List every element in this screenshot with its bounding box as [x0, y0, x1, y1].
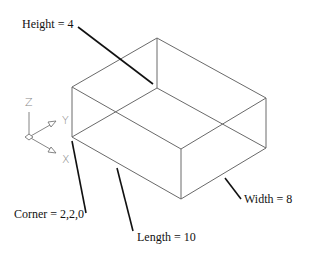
wireframe-box: [72, 38, 266, 199]
y-axis-label: Y: [62, 114, 69, 127]
width-label: Width = 8: [244, 192, 292, 206]
bottom-edge-back-right: [157, 88, 266, 148]
length-leader: [117, 168, 133, 231]
top-edge-front-left: [72, 87, 181, 149]
top-edge-back-right: [157, 38, 266, 98]
x-axis-label: X: [62, 153, 70, 166]
bottom-edge-left-back: [72, 88, 157, 137]
diagram-canvas: Height = 4 Corner = 2,2,0 Length = 10 Wi…: [0, 0, 309, 258]
x-axis-icon: [29, 137, 50, 149]
y-axis-icon: [29, 125, 50, 137]
z-axis-label: Z: [25, 96, 33, 109]
ucs-icon: Z Y X: [25, 96, 70, 166]
width-leader: [225, 178, 241, 199]
box-diagram: Height = 4 Corner = 2,2,0 Length = 10 Wi…: [0, 0, 309, 258]
length-label: Length = 10: [137, 230, 196, 244]
corner-leader: [72, 141, 86, 213]
bottom-edge-front-left: [72, 137, 181, 199]
height-label: Height = 4: [22, 17, 73, 31]
y-arrowhead-icon: [48, 121, 56, 127]
top-edge-left-back: [72, 38, 157, 87]
corner-label: Corner = 2,2,0: [14, 207, 84, 221]
height-leader: [78, 27, 153, 84]
x-arrowhead-icon: [48, 147, 56, 153]
